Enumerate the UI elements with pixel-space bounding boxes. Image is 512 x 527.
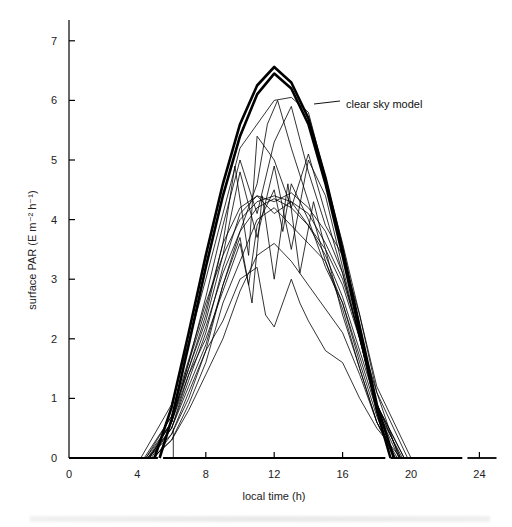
observed-day-curve [148, 184, 403, 458]
x-tick-label: 24 [473, 468, 485, 480]
x-axis-title: local time (h) [243, 490, 306, 502]
x-tick-label: 0 [66, 468, 72, 480]
y-tick-label: 3 [51, 273, 57, 285]
x-tick-label: 20 [405, 468, 417, 480]
observed-day-curve [146, 199, 404, 458]
y-axis-title: surface PAR (E m⁻² h⁻¹) [26, 190, 38, 309]
observed-day-curve [153, 243, 396, 458]
observed-day-curve [149, 106, 399, 458]
clear-sky-model-curve [160, 74, 391, 458]
plot-area [141, 67, 411, 458]
x-tick-label: 16 [336, 468, 348, 480]
axes: 0123456704812162024 [51, 20, 497, 480]
y-tick-label: 6 [51, 94, 57, 106]
x-tick-label: 8 [203, 468, 209, 480]
x-tick-label: 12 [268, 468, 280, 480]
annotation-leader-line [314, 101, 340, 104]
y-tick-label: 4 [51, 214, 57, 226]
par-chart: 0123456704812162024 local time (h) surfa… [0, 0, 512, 527]
figure-caption-blurred [30, 516, 490, 522]
y-tick-label: 5 [51, 154, 57, 166]
x-tick-label: 4 [134, 468, 140, 480]
y-tick-label: 7 [51, 35, 57, 47]
y-tick-label: 2 [51, 333, 57, 345]
clear-sky-model-label: clear sky model [346, 98, 422, 110]
y-tick-label: 1 [51, 392, 57, 404]
observed-day-curve [148, 136, 401, 458]
y-tick-label: 0 [51, 452, 57, 464]
observed-day-curve [151, 184, 397, 458]
